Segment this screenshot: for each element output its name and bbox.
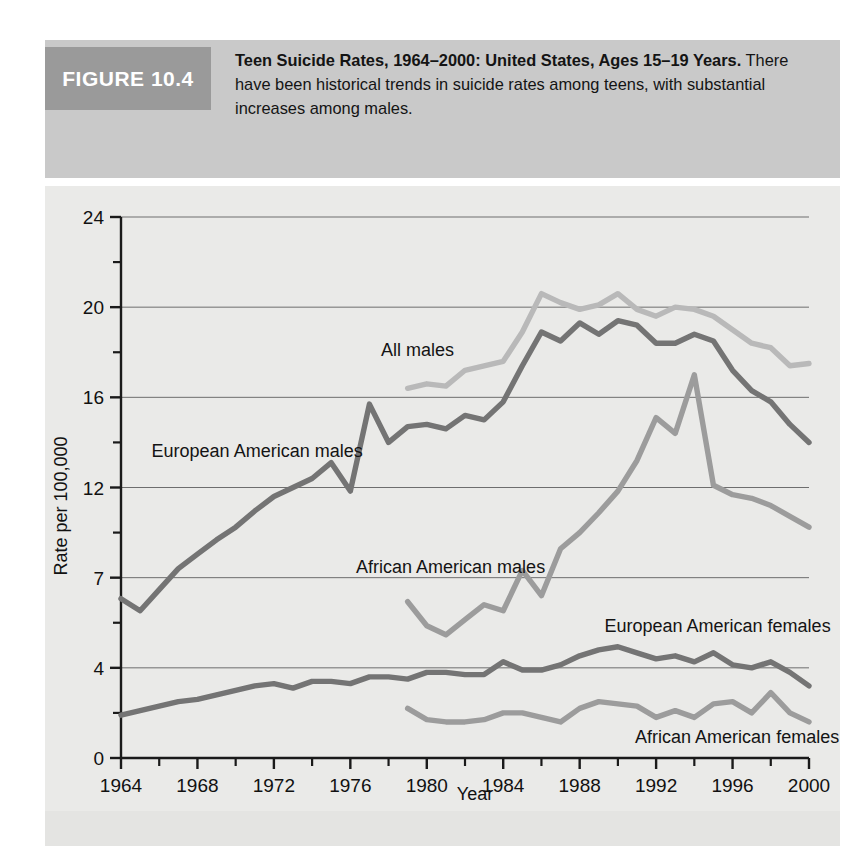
figure-caption-text: Teen Suicide Rates, 1964–2000: United St…: [235, 49, 826, 121]
series-label: African American females: [635, 727, 839, 747]
x-tick-label: 1980: [406, 775, 448, 796]
series-line: [408, 294, 809, 389]
figure-page: FIGURE 10.4 Teen Suicide Rates, 1964–200…: [0, 0, 866, 846]
y-axis-title: Rate per 100,000: [51, 436, 71, 575]
series-label: All males: [381, 340, 454, 360]
series-label: European American females: [605, 616, 831, 636]
y-tick-label: 7: [93, 568, 104, 589]
x-tick-label: 1964: [100, 775, 143, 796]
figure-caption-band: FIGURE 10.4 Teen Suicide Rates, 1964–200…: [45, 40, 840, 178]
chart-series: [121, 294, 809, 722]
series-label: African American males: [356, 557, 545, 577]
x-tick-label: 1988: [559, 775, 601, 796]
x-tick-label: 1992: [635, 775, 677, 796]
series-line: [121, 647, 809, 715]
series-label: European American males: [152, 441, 363, 461]
chart-panel: 04712162024 1964196819721976198019841988…: [45, 186, 840, 811]
x-axis-ticks: [121, 758, 809, 769]
x-tick-label: 1972: [253, 775, 295, 796]
x-axis-title: Year: [457, 784, 493, 804]
x-tick-label: 2000: [788, 775, 830, 796]
figure-caption-title: Teen Suicide Rates, 1964–2000: United St…: [235, 51, 741, 69]
x-tick-label: 1976: [329, 775, 371, 796]
figure-number-tag: FIGURE 10.4: [45, 47, 211, 110]
y-tick-label: 12: [83, 478, 104, 499]
series-line: [408, 693, 809, 722]
y-axis-tick-labels: 04712162024: [83, 207, 105, 769]
y-tick-label: 16: [83, 387, 104, 408]
x-tick-label: 1996: [711, 775, 753, 796]
y-tick-label: 24: [83, 207, 105, 228]
y-axis-ticks: [110, 217, 121, 758]
figure-bottom-strip: [45, 811, 840, 846]
y-tick-label: 20: [83, 297, 104, 318]
x-tick-label: 1968: [176, 775, 218, 796]
y-tick-label: 0: [93, 748, 104, 769]
y-tick-label: 4: [93, 658, 104, 679]
line-chart: 04712162024 1964196819721976198019841988…: [45, 186, 840, 811]
